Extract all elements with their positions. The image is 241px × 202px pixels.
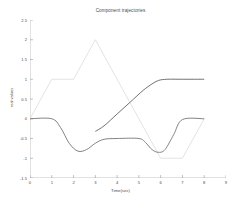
y-tick-label: 0 [13, 116, 27, 121]
y-tick-label: 1 [13, 77, 27, 82]
y-tick-marks [30, 20, 33, 178]
plot-area: 0123456789 2.521.510.50-0.5-1-1.5 [30, 20, 226, 178]
series-component-a-line [30, 118, 204, 152]
x-tick-label: 4 [110, 180, 124, 185]
x-tick-label: 7 [175, 180, 189, 185]
series-component-b-line [95, 79, 204, 131]
y-tick-label: 0.5 [13, 97, 27, 102]
trajectory-plot [30, 20, 226, 178]
y-tick-label: -1 [13, 156, 27, 161]
y-axis-label: real values [9, 78, 14, 118]
y-tick-label: -0.5 [13, 136, 27, 141]
x-tick-label: 8 [197, 180, 211, 185]
x-tick-label: 5 [132, 180, 146, 185]
x-tick-label: 0 [23, 180, 37, 185]
x-tick-label: 1 [45, 180, 59, 185]
figure: Component trajectories 0123456789 2.521.… [0, 0, 241, 202]
x-tick-label: 2 [67, 180, 81, 185]
x-axis-label: Time(sec) [0, 188, 241, 193]
chart-title: Component trajectories [0, 8, 241, 14]
y-tick-label: 2.5 [13, 18, 27, 23]
y-tick-label: 1.5 [13, 57, 27, 62]
series-reference-line [30, 40, 204, 159]
x-tick-label: 3 [88, 180, 102, 185]
x-tick-label: 6 [154, 180, 168, 185]
x-tick-marks [30, 175, 226, 178]
y-tick-label: 2 [13, 37, 27, 42]
x-tick-label: 9 [219, 180, 233, 185]
y-tick-label: -1.5 [13, 176, 27, 181]
